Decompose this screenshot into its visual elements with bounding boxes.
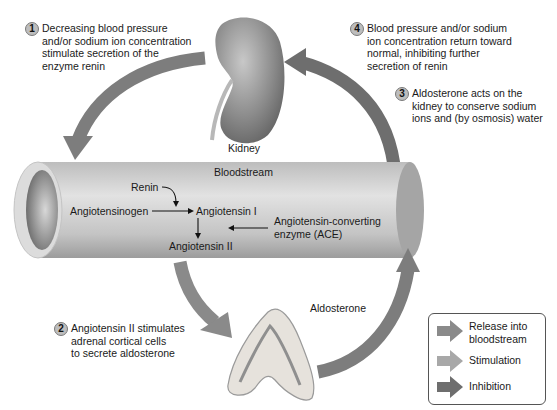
step-number-badge: 2 [54, 322, 68, 336]
step-2-annotation: 2 Angiotensin II stimulates adrenal cort… [54, 322, 185, 360]
angiotensin-i-label: Angiotensin I [196, 205, 257, 218]
stimulation-arrow-icon [437, 350, 463, 372]
angiotensinogen-label: Angiotensinogen [70, 205, 148, 218]
step-text: Decreasing blood pressure and/or sodium … [42, 22, 191, 72]
step-text: Blood pressure and/or sodium ion concent… [367, 22, 512, 72]
adrenal-gland-illustration [228, 309, 314, 400]
legend-label: Inhibition [469, 380, 549, 393]
inhibition-arrow-icon [437, 376, 463, 398]
release-arrow-icon [437, 320, 463, 342]
kidney-illustration [212, 18, 284, 144]
step-4-annotation: 4 Blood pressure and/or sodium ion conce… [350, 22, 512, 72]
step-text: Aldosterone acts on the kidney to conser… [412, 87, 543, 125]
angiotensin-ii-label: Angiotensin II [169, 240, 233, 253]
legend-label: Release into bloodstream [469, 320, 549, 345]
stimulation-arrow-kidney-to-bloodstream [63, 58, 205, 160]
renin-label: Renin [131, 181, 158, 194]
kidney-label: Kidney [228, 142, 260, 155]
ace-label: Angiotensin-converting enzyme (ACE) [274, 215, 381, 240]
step-number-badge: 4 [350, 22, 364, 36]
bloodstream-label: Bloodstream [214, 166, 273, 179]
aldosterone-label: Aldosterone [310, 302, 366, 315]
step-3-annotation: 3 Aldosterone acts on the kidney to cons… [395, 87, 543, 125]
step-text: Angiotensin II stimulates adrenal cortic… [71, 322, 185, 360]
step-number-badge: 3 [395, 87, 409, 101]
legend-label: Stimulation [469, 354, 549, 367]
step-number-badge: 1 [25, 22, 39, 36]
legend: Release into bloodstream Stimulation Inh… [428, 313, 546, 405]
release-arrow-to-adrenal [180, 262, 232, 338]
step-1-annotation: 1 Decreasing blood pressure and/or sodiu… [25, 22, 191, 72]
